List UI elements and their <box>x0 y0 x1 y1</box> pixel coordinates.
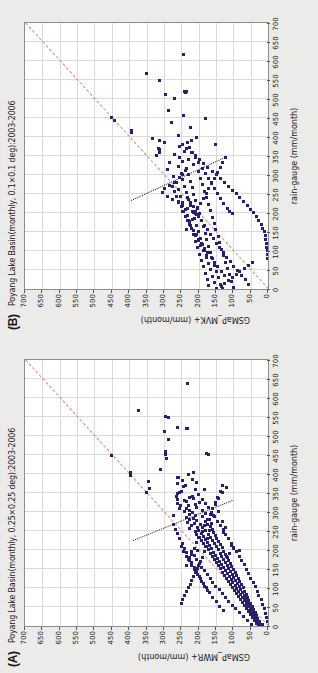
data-point <box>224 533 227 536</box>
data-point <box>252 212 255 215</box>
data-point <box>198 158 201 161</box>
xtick-label: 300 <box>272 506 280 519</box>
data-point <box>200 566 203 569</box>
data-point <box>155 155 158 158</box>
panel-b-plot-area <box>24 22 269 290</box>
data-point <box>266 257 269 260</box>
data-point <box>195 224 198 227</box>
data-point <box>214 143 217 146</box>
xtick-label: 500 <box>272 93 280 106</box>
data-point <box>204 502 207 505</box>
data-point <box>205 192 208 195</box>
data-point <box>195 213 198 216</box>
ytick-mark <box>198 290 199 293</box>
ytick-mark <box>163 290 164 293</box>
xtick-label: 0 <box>272 288 280 292</box>
xtick-mark <box>267 569 270 570</box>
data-point <box>234 607 237 610</box>
ytick-label: 550 <box>72 631 80 653</box>
ytick-mark <box>198 627 199 630</box>
xtick-mark <box>267 251 270 252</box>
data-point <box>180 545 183 548</box>
data-point <box>222 202 225 205</box>
data-point <box>200 242 203 245</box>
ytick-mark <box>76 290 77 293</box>
data-point <box>197 161 200 164</box>
ytick-mark <box>59 290 60 293</box>
data-point <box>191 210 194 213</box>
ytick-label: 600 <box>55 294 63 316</box>
data-point <box>223 181 226 184</box>
data-point <box>201 167 204 170</box>
data-point <box>196 573 199 576</box>
data-point <box>192 193 195 196</box>
xtick-mark <box>267 550 270 551</box>
data-point <box>196 549 199 552</box>
data-point <box>184 169 187 172</box>
data-point <box>243 267 246 270</box>
data-point <box>194 488 197 491</box>
figure-container: (A) Poyang Lake Basin(monthly, 0.25×0.25… <box>0 0 318 673</box>
data-point <box>172 175 175 178</box>
data-point <box>230 542 233 545</box>
data-point <box>189 126 192 129</box>
ytick-mark <box>163 627 164 630</box>
data-point <box>178 176 181 179</box>
data-point <box>219 524 222 527</box>
data-point <box>191 186 194 189</box>
data-point <box>266 253 269 256</box>
data-point <box>230 280 233 283</box>
data-point <box>195 558 198 561</box>
data-point <box>200 219 203 222</box>
data-point <box>189 201 192 204</box>
xtick-mark <box>267 118 270 119</box>
data-point <box>203 524 206 527</box>
data-point <box>193 522 196 525</box>
data-point <box>221 161 224 164</box>
data-point <box>167 438 170 441</box>
gridline-horizontal <box>77 360 78 626</box>
data-point <box>185 427 188 430</box>
data-point <box>195 481 198 484</box>
data-point <box>202 265 205 268</box>
data-point <box>185 191 188 194</box>
panel-a-xaxis-label: rain-gauge (mm/month) <box>290 359 299 627</box>
gridline-horizontal <box>129 23 130 289</box>
ytick-mark <box>93 290 94 293</box>
data-point <box>221 484 224 487</box>
data-point <box>185 564 188 567</box>
ytick-label: 500 <box>89 631 97 653</box>
data-point <box>213 515 216 518</box>
data-point <box>201 556 204 559</box>
data-point <box>176 426 179 429</box>
gridline-horizontal <box>112 360 113 626</box>
data-point <box>220 270 223 273</box>
data-point <box>219 177 222 180</box>
data-point <box>218 605 221 608</box>
data-point <box>167 416 170 419</box>
data-point <box>223 282 226 285</box>
data-point <box>229 260 232 263</box>
xtick-mark <box>267 436 270 437</box>
ytick-mark <box>250 627 251 630</box>
panel-a-plot-area <box>24 359 269 627</box>
data-point <box>226 207 229 210</box>
data-point <box>175 195 178 198</box>
data-point <box>255 215 258 218</box>
xtick-label: 150 <box>272 226 280 239</box>
xtick-mark <box>267 23 270 24</box>
data-point <box>235 273 238 276</box>
data-point <box>192 471 195 474</box>
ytick-label: 250 <box>176 294 184 316</box>
data-point <box>207 262 210 265</box>
xtick-label: 350 <box>272 487 280 500</box>
xtick-mark <box>267 61 270 62</box>
xtick-mark <box>267 42 270 43</box>
xtick-label: 450 <box>272 112 280 125</box>
gridline-horizontal <box>42 360 43 626</box>
data-point <box>130 131 133 134</box>
ytick-mark <box>146 627 147 630</box>
data-point <box>200 259 203 262</box>
data-point <box>215 600 218 603</box>
data-point <box>178 507 181 510</box>
